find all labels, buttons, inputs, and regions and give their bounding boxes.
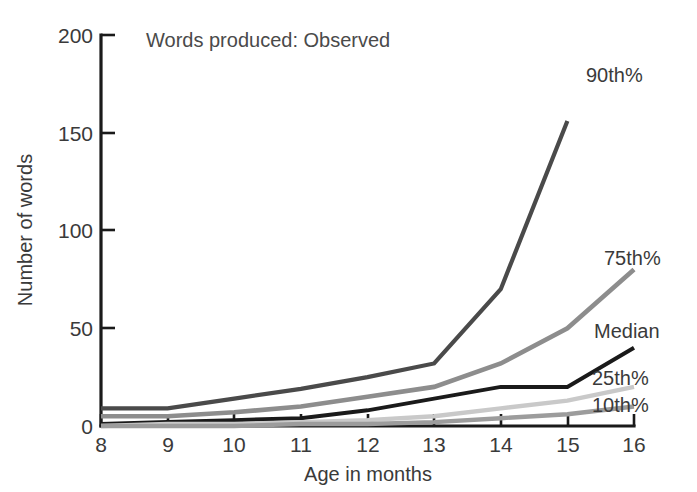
x-tick-label-9: 9 xyxy=(162,433,174,456)
x-tick-label-10: 10 xyxy=(222,433,245,456)
x-axis-tick-labels: 8 9 10 11 12 13 14 15 16 xyxy=(95,433,646,456)
series-annotations: 90th%75th%Median25th%10th% xyxy=(586,64,661,416)
y-axis-title: Number of words xyxy=(14,154,36,306)
y-tick-label-200: 200 xyxy=(58,24,93,47)
x-tick-label-11: 11 xyxy=(290,433,312,456)
series-label-10th: 10th% xyxy=(592,394,649,416)
chart-container: 200 150 100 50 0 8 9 10 11 12 13 14 xyxy=(0,0,697,492)
x-tick-label-16: 16 xyxy=(622,433,645,456)
y-axis-ticks xyxy=(101,35,115,328)
x-axis-title: Age in months xyxy=(304,463,432,485)
y-tick-label-100: 100 xyxy=(58,219,93,242)
chart-axes xyxy=(101,35,634,426)
x-tick-label-14: 14 xyxy=(489,433,513,456)
series-layer xyxy=(101,121,634,426)
x-tick-label-15: 15 xyxy=(556,433,579,456)
y-tick-label-150: 150 xyxy=(58,122,93,145)
plot-title: Words produced: Observed xyxy=(146,29,390,51)
line-chart: 200 150 100 50 0 8 9 10 11 12 13 14 xyxy=(0,0,697,492)
series-label-median: Median xyxy=(594,320,660,342)
series-line-median xyxy=(101,348,634,424)
series-label-75th: 75th% xyxy=(604,247,661,269)
series-line-75th xyxy=(101,270,634,417)
x-tick-label-12: 12 xyxy=(356,433,379,456)
y-axis-tick-labels: 200 150 100 50 0 xyxy=(58,24,93,438)
y-tick-label-50: 50 xyxy=(70,317,93,340)
y-tick-label-0: 0 xyxy=(81,415,93,438)
x-tick-label-13: 13 xyxy=(422,433,445,456)
x-tick-label-8: 8 xyxy=(95,433,107,456)
series-label-90th: 90th% xyxy=(586,64,643,86)
series-label-25th: 25th% xyxy=(592,367,649,389)
